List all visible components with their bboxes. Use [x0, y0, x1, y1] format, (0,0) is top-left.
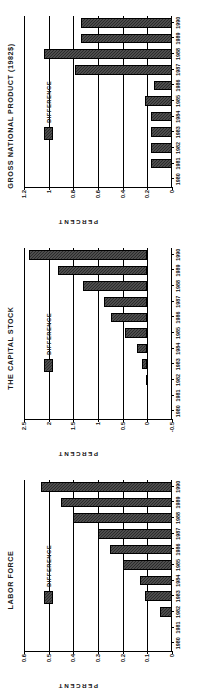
bar: [81, 18, 172, 28]
x-tick-label: 1983: [175, 358, 181, 370]
bar: [44, 49, 172, 59]
y-axis-label: PERCENT: [57, 219, 98, 226]
x-tick-label: 1984: [175, 343, 181, 355]
x-tick-label: 1989: [175, 496, 181, 508]
x-tick-label: 1987: [175, 64, 181, 76]
y-tick-label: 0: [169, 654, 175, 657]
x-tick-mark: [171, 395, 174, 396]
y-tick-label: 0.5: [46, 654, 52, 662]
x-tick-label: 1990: [175, 249, 181, 261]
x-tick-label: 1989: [175, 264, 181, 276]
legend: DIFFERENCE: [44, 545, 53, 604]
panel-the-capital-stock: THE CAPITAL STOCKPERCENT-0.500.511.522.5…: [0, 232, 212, 464]
x-tick-label: 1984: [175, 575, 181, 587]
y-tick-label: 0.8: [70, 190, 76, 198]
bar: [110, 545, 172, 555]
y-tick-label: 0.5: [120, 422, 126, 430]
chart-capital: THE CAPITAL STOCKPERCENT-0.500.511.522.5…: [0, 232, 212, 464]
y-tick-label: 0.4: [70, 654, 76, 662]
x-tick-label: 1987: [175, 296, 181, 308]
x-tick-mark: [171, 269, 174, 270]
bar: [151, 159, 172, 169]
bar: [151, 143, 172, 153]
bar: [73, 513, 172, 523]
bar: [151, 112, 172, 122]
bar: [151, 127, 172, 137]
y-tick-label: 0.2: [144, 190, 150, 198]
x-tick-label: 1986: [175, 311, 181, 323]
x-tick-label: 1985: [175, 559, 181, 571]
x-tick-mark: [171, 348, 174, 349]
x-tick-label: 1990: [175, 481, 181, 493]
x-tick-mark: [171, 254, 174, 255]
x-tick-label: 1987: [175, 528, 181, 540]
x-tick-label: 1980: [175, 173, 181, 185]
y-tick-label: 0.4: [120, 190, 126, 198]
x-tick-mark: [171, 410, 174, 411]
x-tick-label: 1988: [175, 512, 181, 524]
chart-page: GROSS NATIONAL PRODUCT (1982$)PERCENT00.…: [0, 0, 212, 696]
x-tick-label: 1981: [175, 390, 181, 402]
bar: [41, 482, 172, 492]
bar: [58, 266, 148, 276]
x-tick-mark: [171, 178, 174, 179]
legend-label-difference: DIFFERENCE: [46, 313, 52, 355]
gridline: [24, 248, 25, 419]
bar: [137, 344, 147, 354]
gridline: [147, 248, 148, 419]
bar: [75, 65, 172, 75]
y-tick-label: 0.6: [95, 190, 101, 198]
x-tick-label: 1990: [175, 17, 181, 29]
legend-swatch-difference: [44, 359, 53, 372]
bar: [160, 607, 172, 617]
x-tick-label: 1989: [175, 32, 181, 44]
y-tick-label: 0.3: [95, 654, 101, 662]
x-tick-label: 1982: [175, 374, 181, 386]
y-tick-label: 1: [46, 190, 52, 193]
chart-title: LABOR FORCE: [6, 464, 15, 696]
bar: [29, 250, 147, 260]
x-tick-label: 1983: [175, 590, 181, 602]
legend-swatch-difference: [44, 591, 53, 604]
bar: [154, 81, 173, 91]
y-tick-label: -0.5: [169, 422, 175, 432]
y-tick-label: 2.5: [21, 422, 27, 430]
x-tick-label: 1982: [175, 142, 181, 154]
x-tick-label: 1981: [175, 622, 181, 634]
panel-gross-national-product: GROSS NATIONAL PRODUCT (1982$)PERCENT00.…: [0, 0, 212, 232]
x-tick-mark: [171, 379, 174, 380]
x-tick-label: 1985: [175, 327, 181, 339]
bar: [81, 34, 172, 44]
x-tick-label: 1980: [175, 637, 181, 649]
legend: DIFFERENCE: [44, 81, 53, 140]
chart-title: GROSS NATIONAL PRODUCT (1982$): [6, 0, 15, 232]
x-tick-mark: [171, 332, 174, 333]
panel-labor-force: LABOR FORCEPERCENT00.10.20.30.40.50.6198…: [0, 464, 212, 696]
y-tick-label: 1: [95, 422, 101, 425]
bar: [142, 359, 147, 369]
gridline: [24, 480, 25, 651]
bar: [123, 560, 172, 570]
bar: [61, 498, 172, 508]
y-axis-label: PERCENT: [57, 683, 98, 690]
bar: [111, 313, 147, 323]
y-tick-label: 0.1: [144, 654, 150, 662]
bar: [104, 297, 147, 307]
bar: [145, 591, 172, 601]
bar: [98, 529, 172, 539]
y-tick-label: 0.2: [120, 654, 126, 662]
x-tick-label: 1983: [175, 126, 181, 138]
y-axis-label: PERCENT: [57, 451, 98, 458]
x-tick-label: 1981: [175, 158, 181, 170]
x-tick-mark: [171, 642, 174, 643]
y-tick-label: 1.2: [21, 190, 27, 198]
chart-gnp: GROSS NATIONAL PRODUCT (1982$)PERCENT00.…: [0, 0, 212, 232]
y-tick-label: 0.6: [21, 654, 27, 662]
bar: [125, 328, 147, 338]
bar: [145, 96, 172, 106]
y-tick-label: 0: [169, 190, 175, 193]
x-tick-label: 1988: [175, 48, 181, 60]
legend-swatch-difference: [44, 127, 53, 140]
legend-label-difference: DIFFERENCE: [46, 81, 52, 123]
x-tick-label: 1986: [175, 79, 181, 91]
